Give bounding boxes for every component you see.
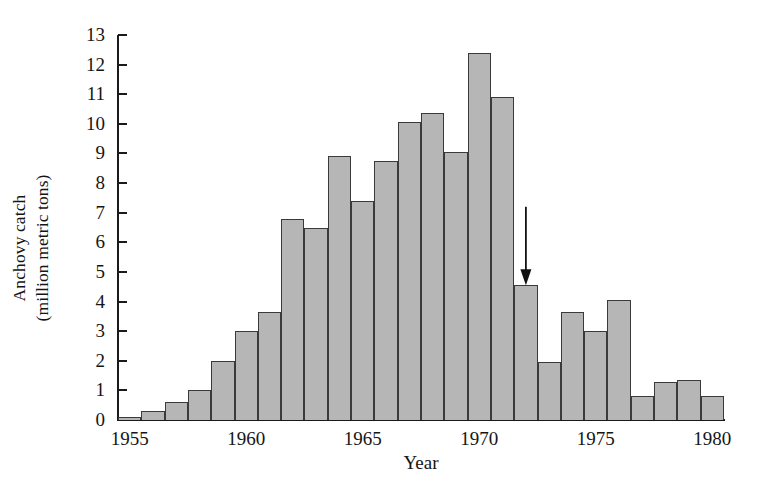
bar-1974 [561,312,584,420]
y-tick-mark [118,330,127,332]
bar-1979 [677,380,700,420]
bar-1960 [235,331,258,420]
y-tick-label: 6 [65,230,105,254]
bar-1957 [165,402,188,420]
bar-1980 [701,396,724,420]
y-tick-mark [118,241,127,243]
y-tick-mark [118,182,127,184]
y-tick-mark [118,123,127,125]
y-tick-label: 1 [65,378,105,402]
bar-1955 [118,417,141,420]
y-tick-mark [118,152,127,154]
y-tick-mark [118,301,127,303]
x-tick-label-1975: 1975 [551,427,641,451]
y-tick-mark [118,64,127,66]
y-tick-label: 7 [65,201,105,225]
bar-1959 [211,361,234,420]
bar-1966 [374,161,397,420]
y-tick-mark [118,34,127,36]
bar-1962 [281,219,304,420]
y-axis-title: Anchovy catch (million metric tons) [0,0,62,496]
y-tick-label: 10 [65,112,105,136]
x-tick-label-1965: 1965 [318,427,408,451]
y-tick-mark [118,360,127,362]
bar-1964 [328,156,351,420]
y-tick-label: 3 [65,319,105,343]
y-tick-mark [118,271,127,273]
y-tick-mark [118,93,127,95]
y-tick-label: 8 [65,171,105,195]
x-tick-label-1960: 1960 [201,427,291,451]
bar-1972 [514,285,537,420]
bar-1978 [654,382,677,421]
y-axis-title-line-1: Anchovy catch [8,175,31,322]
x-tick-label-1980: 1980 [667,427,757,451]
y-axis-title-line-2: (million metric tons) [31,175,54,322]
bar-1968 [421,113,444,420]
bar-1958 [188,390,211,420]
bar-1975 [584,331,607,420]
bar-1956 [141,411,164,420]
y-tick-label: 13 [65,23,105,47]
bar-1967 [398,122,421,420]
x-tick-label-1970: 1970 [434,427,524,451]
bar-1965 [351,201,374,420]
bar-1969 [444,152,467,420]
y-tick-mark [118,212,127,214]
x-axis-title: Year [118,452,724,474]
plot-area: 012345678910111213 195519601965197019751… [118,35,724,420]
y-tick-label: 12 [65,53,105,77]
bar-1977 [631,396,654,420]
y-tick-label: 4 [65,290,105,314]
bar-1961 [258,312,281,420]
bar-1971 [491,97,514,420]
anchovy-catch-bar-chart: Anchovy catch (million metric tons) 0123… [0,0,758,496]
y-tick-label: 11 [65,82,105,106]
bar-1963 [304,228,327,421]
arrow-head [520,269,531,285]
bar-1973 [538,362,561,420]
y-tick-label: 5 [65,260,105,284]
bar-1976 [607,300,630,420]
y-tick-label: 9 [65,141,105,165]
bar-1970 [468,53,491,420]
y-tick-mark [118,389,127,391]
x-tick-label-1955: 1955 [85,427,175,451]
y-tick-label: 2 [65,349,105,373]
